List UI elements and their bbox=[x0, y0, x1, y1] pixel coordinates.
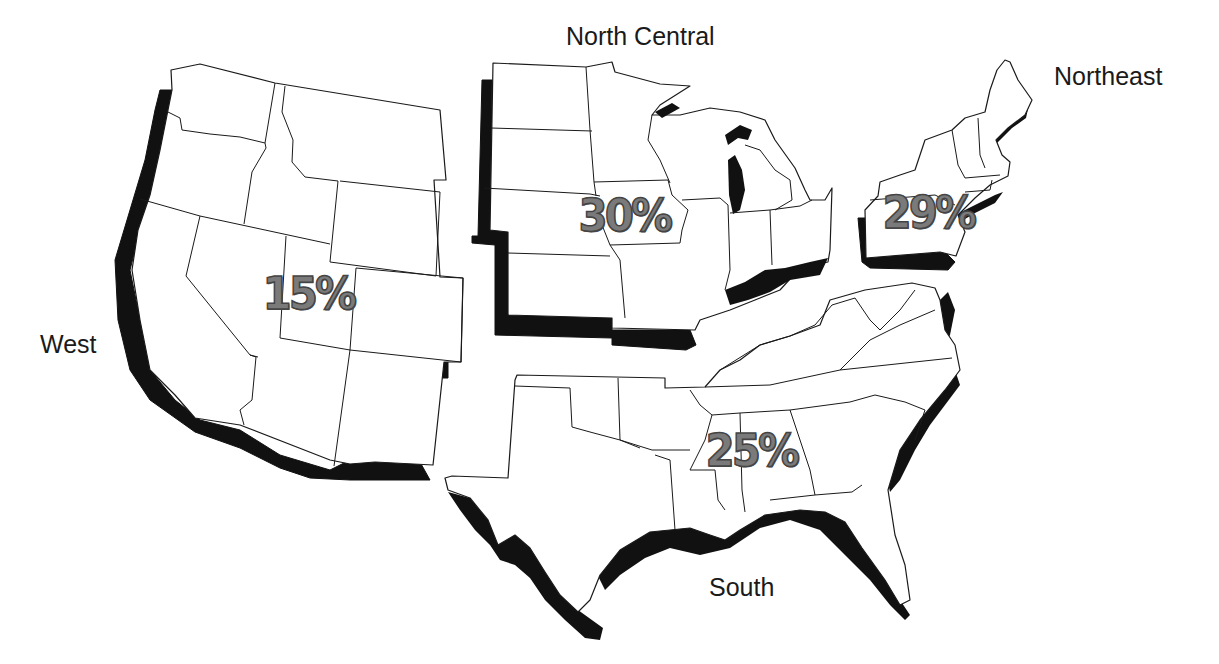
us-regions-map bbox=[0, 0, 1219, 664]
percent-label-west: 15% bbox=[262, 268, 354, 319]
percent-label-northeast: 29% bbox=[882, 187, 974, 238]
region-label-northeast: Northeast bbox=[1054, 62, 1162, 91]
percent-label-south: 25% bbox=[705, 425, 797, 476]
region-label-north-central: North Central bbox=[566, 22, 715, 51]
percent-label-north-central: 30% bbox=[578, 190, 670, 241]
region-label-west: West bbox=[40, 330, 97, 359]
region-south bbox=[445, 283, 960, 640]
region-northeast bbox=[858, 60, 1032, 270]
region-label-south: South bbox=[709, 573, 774, 602]
